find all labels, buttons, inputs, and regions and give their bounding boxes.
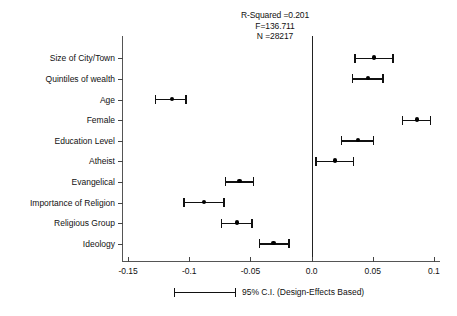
point-estimate-marker xyxy=(237,179,241,183)
ci-lower-cap xyxy=(221,219,222,228)
y-axis-category-label: Size of City/Town xyxy=(50,54,115,63)
plot-area: Size of City/TownQuintiles of wealthAgeF… xyxy=(122,36,440,262)
y-axis-category-label: Atheist xyxy=(89,157,115,166)
y-axis-category-label: Female xyxy=(87,116,115,125)
ci-row xyxy=(122,218,440,229)
x-axis-tick-label: 0.1 xyxy=(428,267,440,276)
ci-upper-cap xyxy=(288,239,289,248)
y-axis-category-label: Education Level xyxy=(55,136,116,145)
ci-lower-cap xyxy=(402,116,403,125)
ci-upper-cap xyxy=(251,219,252,228)
ci-row xyxy=(122,197,440,208)
ci-upper-cap xyxy=(223,198,224,207)
ci-lower-cap xyxy=(183,198,184,207)
x-axis-tick-label: -0.1 xyxy=(182,267,197,276)
ci-lower-cap xyxy=(315,157,316,166)
ci-lower-cap xyxy=(225,177,226,186)
x-axis-tick xyxy=(434,257,435,262)
x-axis-tick xyxy=(312,257,313,262)
ci-upper-cap xyxy=(373,136,374,145)
y-axis-category-label: Age xyxy=(100,95,115,104)
ci-lower-cap xyxy=(354,54,355,63)
x-axis-tick-label: 0.0 xyxy=(306,267,318,276)
ci-lower-cap xyxy=(259,239,260,248)
x-axis-line xyxy=(122,261,440,262)
ci-row xyxy=(122,156,440,167)
r-squared-text: R-Squared =0.201 xyxy=(205,10,345,21)
ci-upper-cap xyxy=(185,95,186,104)
ci-row xyxy=(122,73,440,84)
ci-lower-cap xyxy=(352,74,353,83)
ci-row xyxy=(122,94,440,105)
ci-row xyxy=(122,135,440,146)
f-statistic-text: F=136.711 xyxy=(205,21,345,32)
legend-interval-icon xyxy=(174,287,236,297)
x-axis-tick-label: -0.15 xyxy=(118,267,137,276)
legend-label: 95% C.I. (Design-Effects Based) xyxy=(242,287,364,297)
x-axis-tick-label: -0.05 xyxy=(241,267,260,276)
y-axis-category-label: Evangelical xyxy=(72,177,115,186)
x-axis-tick xyxy=(373,257,374,262)
y-axis-category-label: Importance of Religion xyxy=(30,198,115,207)
ci-upper-cap xyxy=(253,177,254,186)
point-estimate-marker xyxy=(271,241,275,245)
y-axis-category-label: Quintiles of wealth xyxy=(46,74,115,83)
ci-upper-cap xyxy=(382,74,383,83)
ci-upper-cap xyxy=(392,54,393,63)
ci-row xyxy=(122,176,440,187)
point-estimate-marker xyxy=(372,55,376,59)
ci-row xyxy=(122,238,440,249)
ci-row xyxy=(122,53,440,64)
forest-plot-chart: R-Squared =0.201 F=136.711 N =28217 Size… xyxy=(0,0,457,316)
ci-row xyxy=(122,115,440,126)
ci-upper-cap xyxy=(430,116,431,125)
x-axis-tick-label: 0.05 xyxy=(364,267,381,276)
point-estimate-marker xyxy=(202,200,206,204)
point-estimate-marker xyxy=(333,158,337,162)
legend: 95% C.I. (Design-Effects Based) xyxy=(174,286,364,298)
x-axis-tick xyxy=(128,257,129,262)
point-estimate-marker xyxy=(415,117,419,121)
x-axis-tick xyxy=(189,257,190,262)
point-estimate-marker xyxy=(235,220,239,224)
ci-lower-cap xyxy=(155,95,156,104)
ci-upper-cap xyxy=(353,157,354,166)
ci-lower-cap xyxy=(341,136,342,145)
y-axis-category-label: Ideology xyxy=(83,239,115,248)
x-axis-tick xyxy=(250,257,251,262)
y-axis-category-label: Religious Group xyxy=(54,219,115,228)
